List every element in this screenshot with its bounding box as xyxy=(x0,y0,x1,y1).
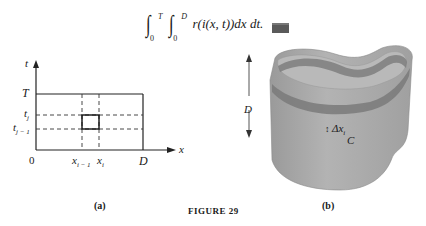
t-tick-tj: tj xyxy=(24,107,29,122)
panel-b-surface xyxy=(220,40,426,200)
x-tick-xi1: xi − 1 xyxy=(72,154,91,169)
strip-sub: i xyxy=(343,129,345,137)
xi1-sub: i − 1 xyxy=(77,161,91,169)
tj1-sub: j − 1 xyxy=(16,128,30,136)
t-axis-arrow-icon xyxy=(33,60,39,68)
x-axis-label: x xyxy=(179,143,184,155)
panel-a-diagram xyxy=(0,0,220,226)
strip-label: ↕ Δxi xyxy=(325,122,345,137)
x-axis-arrow-icon xyxy=(167,147,176,153)
panel-b-caption: (b) xyxy=(322,200,334,211)
origin-label: 0 xyxy=(29,154,35,166)
xi-sub: i xyxy=(102,161,104,169)
panel-a-caption: (a) xyxy=(94,200,106,211)
x-tick-xi: xi xyxy=(97,154,104,169)
t-tick-tj1: tj − 1 xyxy=(13,121,30,136)
x-tick-D: D xyxy=(139,154,148,169)
strip-delta-x: Δx xyxy=(332,122,343,134)
curve-label-C: C xyxy=(347,134,354,146)
equation-marker-icon xyxy=(272,23,289,33)
figure-title: FIGURE 29 xyxy=(188,206,239,216)
arrow-up-icon xyxy=(246,54,252,62)
double-arrow-icon: ↕ xyxy=(325,124,330,134)
t-axis-label: t xyxy=(25,57,28,69)
subrectangle-cell xyxy=(82,115,99,129)
height-label-D: D xyxy=(244,103,252,115)
t-tick-T: T xyxy=(22,86,29,101)
arrow-down-icon xyxy=(246,130,252,138)
